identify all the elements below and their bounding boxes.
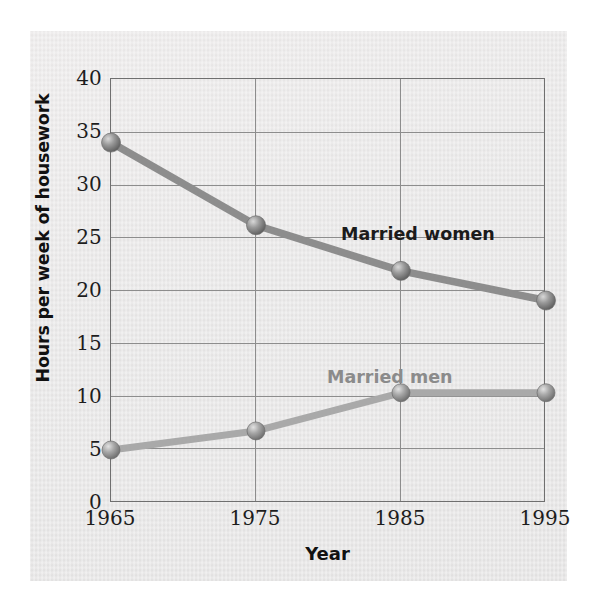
data-point-marker: [102, 441, 120, 459]
series-married-women: [102, 133, 556, 310]
figure-page: Hours per week of housework 40 35 30 25 …: [0, 0, 598, 601]
x-tick-label: 1965: [65, 506, 155, 530]
y-tick-label: 25: [56, 225, 102, 249]
series-label-married-men: Married men: [327, 367, 453, 387]
x-tick-label: 1975: [210, 506, 300, 530]
data-point-marker: [247, 422, 265, 440]
data-point-marker: [537, 384, 555, 402]
x-axis-tick-labels: 1965 1975 1985 1995: [110, 506, 545, 540]
y-tick-label: 30: [56, 172, 102, 196]
y-tick-label: 10: [56, 384, 102, 408]
chart-series-canvas: [111, 79, 546, 503]
y-tick-label: 15: [56, 331, 102, 355]
data-point-marker: [102, 133, 121, 152]
x-tick-label: 1995: [500, 506, 590, 530]
x-axis-title: Year: [110, 543, 545, 564]
y-tick-label: 40: [56, 66, 102, 90]
data-point-marker: [392, 261, 411, 280]
plot-area: Married women Married men: [110, 78, 545, 502]
data-point-marker: [247, 216, 266, 235]
x-tick-label: 1985: [355, 506, 445, 530]
y-tick-label: 20: [56, 278, 102, 302]
series-line-married-men: [111, 393, 546, 450]
series-married-men: [102, 384, 555, 459]
series-line-married-women: [111, 143, 546, 301]
data-point-marker: [537, 291, 556, 310]
y-tick-label: 5: [56, 437, 102, 461]
y-tick-label: 35: [56, 119, 102, 143]
series-markers-married-women: [102, 133, 556, 310]
y-axis-tick-labels: 40 35 30 25 20 15 10 5 0: [48, 78, 102, 502]
series-label-married-women: Married women: [341, 224, 495, 244]
